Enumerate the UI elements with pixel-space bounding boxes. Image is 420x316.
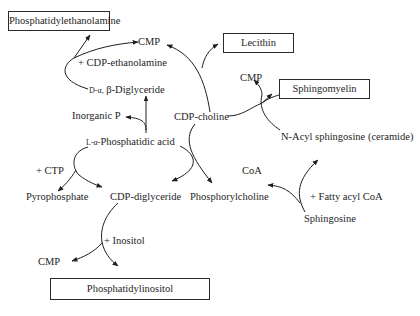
label-diglyceride-prefix: D-α, [89,86,104,95]
label-diglyceride: D-α, β-Diglyceride [89,84,165,97]
label-diglyceride-name: β-Diglyceride [106,84,164,95]
label-sphingosine: Sphingosine [304,213,356,225]
product-sphingomyelin: Sphingomyelin [279,79,370,99]
label-cmp-right: CMP [240,72,262,84]
label-cdp-ethanolamine: + CDP-ethanolamine [78,57,167,69]
label-cdp-choline: CDP-choline [174,111,229,123]
product-phosphatidylethanolamine: Phosphatidylethanolamine [8,11,110,31]
label-phosphatidic-acid: L-α-Phosphatidic acid [86,136,175,149]
label-fatty-acyl-coa: + Fatty acyl CoA [310,191,383,203]
label-phosphatidic-prefix: L-α- [86,138,100,147]
label-inositol: + Inositol [104,235,145,247]
label-pyrophosphate: Pyrophosphate [26,191,88,203]
product-phosphatidylinositol: Phosphatidylinositol [50,278,210,300]
label-cmp-bottom: CMP [38,256,60,268]
label-inorganic-p: Inorganic P [72,110,121,122]
label-phosphatidic-name: Phosphatidic acid [100,136,174,147]
label-ceramide: N-Acyl sphingosine (ceramide) [281,131,413,143]
label-cdp-diglyceride: CDP-diglyceride [110,191,181,203]
label-phosphorylcholine: Phosphorylcholine [190,191,269,203]
product-lecithin: Lecithin [223,33,294,53]
label-cmp-top: CMP [138,36,160,48]
label-coa: CoA [242,165,262,177]
pathway-arrows [0,0,420,316]
label-ctp: + CTP [36,165,64,177]
